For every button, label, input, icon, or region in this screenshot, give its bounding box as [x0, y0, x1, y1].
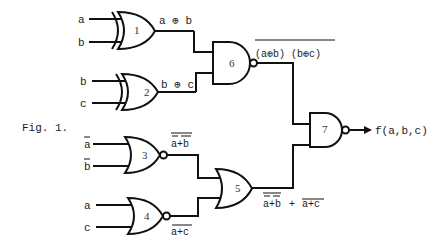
gate-3-output-label: a+b	[171, 139, 189, 150]
gate-4-output-label: a+c	[171, 227, 189, 238]
input-label-a-bar: a	[84, 139, 91, 151]
wire-g2-g6	[196, 73, 213, 92]
gate-number: 5	[235, 182, 241, 194]
gate-number: 6	[229, 57, 235, 69]
gate-2-xor: b c 2 b ⊕ c	[80, 74, 196, 110]
output-arrow-icon	[364, 126, 372, 134]
input-label-b: b	[80, 76, 87, 88]
gate-4-nor: a c 4 a+c	[84, 198, 192, 238]
input-label-c: c	[80, 98, 87, 110]
gate-number: 2	[144, 86, 150, 98]
gate-1-output-label: a ⊕ b	[159, 15, 192, 27]
input-label-a: a	[84, 200, 91, 212]
gate-5-or: 5 a+b + a+c	[216, 169, 324, 210]
logic-circuit-diagram: Fig. 1. a b 1 a ⊕ b b c 2 b ⊕ c 6 (a⊕b) …	[0, 0, 444, 251]
input-label-c: c	[84, 222, 91, 234]
gate-5-output-label-right: a+c	[302, 199, 320, 210]
gate-number: 1	[134, 24, 140, 36]
gate-number: 7	[322, 123, 328, 135]
gate-5-output-label-plus: +	[289, 199, 295, 210]
gate-5-output-label-left: a+b	[263, 199, 281, 210]
gate-3-nor: a b 3 a+b	[84, 133, 192, 173]
wire-g4-g5	[170, 198, 221, 216]
gate-number: 3	[142, 149, 148, 161]
wire-g6-g7	[257, 63, 310, 124]
input-label-a: a	[78, 14, 85, 26]
input-label-b: b	[78, 37, 85, 49]
wire-g5-g7	[252, 145, 310, 188]
gate-7-nand: 7 f(a,b,c)	[310, 113, 428, 147]
wire-g1-g6	[194, 31, 213, 52]
figure-caption: Fig. 1.	[22, 122, 68, 134]
function-output-label: f(a,b,c)	[375, 125, 428, 137]
wire-g3-g5	[167, 155, 221, 178]
gate-6-output-label: (a⊕b) (b⊕c)	[255, 49, 321, 60]
input-label-b-bar: b	[84, 161, 91, 173]
gate-2-output-label: b ⊕ c	[161, 79, 194, 91]
gate-1-xor: a b 1 a ⊕ b	[78, 12, 194, 49]
gate-number: 4	[144, 210, 150, 222]
